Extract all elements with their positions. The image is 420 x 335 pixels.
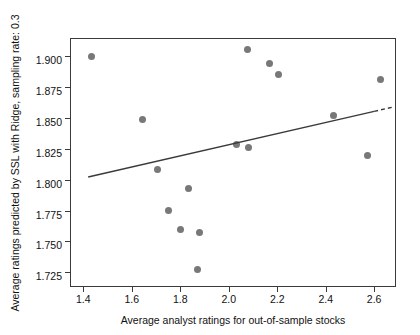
x-tick-label: 2.6 [354,293,394,305]
data-point [233,141,240,148]
data-point [185,185,192,192]
x-tick-mark [83,287,84,292]
y-tick-label: 1.725 [0,266,62,278]
y-tick-mark [65,272,70,273]
x-tick-mark [277,287,278,292]
data-point [177,226,184,233]
data-point [196,229,203,236]
data-point [364,152,371,159]
x-tick-label: 2.2 [257,293,297,305]
x-tick-mark [374,287,375,292]
x-tick-mark [229,287,230,292]
x-axis-label-text: Average analyst ratings for out-of-sampl… [121,314,346,326]
y-tick-label: 1.850 [0,112,62,124]
x-tick-label: 2.0 [209,293,249,305]
plot-area [70,38,396,287]
y-tick-label: 1.800 [0,174,62,186]
y-tick-mark [65,56,70,57]
y-tick-mark [65,87,70,88]
y-tick-mark [65,118,70,119]
y-tick-mark [65,149,70,150]
y-tick-mark [65,241,70,242]
x-tick-mark [326,287,327,292]
y-tick-label: 1.750 [0,235,62,247]
y-tick-label: 1.825 [0,143,62,155]
x-tick-label: 1.8 [160,293,200,305]
data-point [88,53,95,60]
x-tick-label: 1.4 [63,293,103,305]
y-tick-label: 1.900 [0,50,62,62]
y-tick-mark [65,211,70,212]
y-tick-label: 1.875 [0,81,62,93]
y-tick-mark [65,180,70,181]
x-tick-label: 1.6 [112,293,152,305]
x-tick-label: 2.4 [306,293,346,305]
x-axis-label: Average analyst ratings for out-of-sampl… [70,310,396,328]
x-tick-mark [180,287,181,292]
y-tick-label: 1.775 [0,205,62,217]
scatter-plot-figure: Average ratings predicted by SSL with Ri… [0,0,420,335]
data-point [139,116,146,123]
data-point [244,46,251,53]
x-tick-mark [132,287,133,292]
data-point [165,207,172,214]
